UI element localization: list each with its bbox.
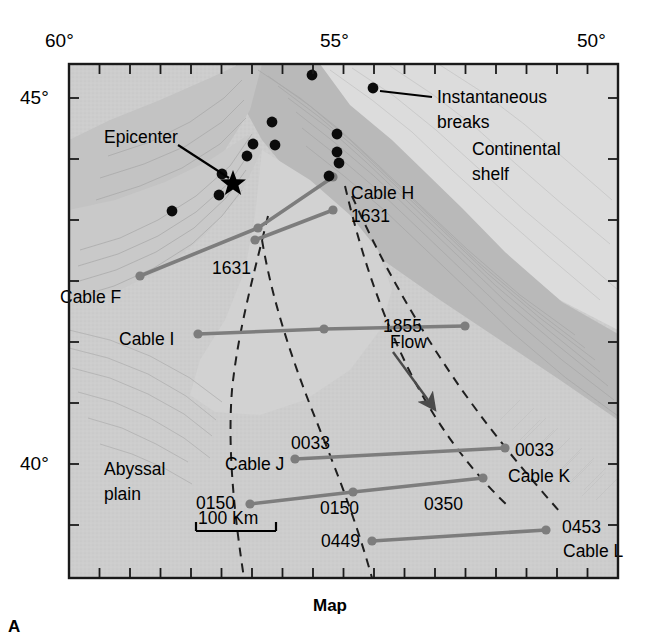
label-break-time-cable-j-0033: 0033 <box>291 433 330 453</box>
label-cable-i: Cable I <box>119 329 174 349</box>
axis-label-longitude-60: 60° <box>45 30 74 52</box>
axis-label-latitude-45: 45° <box>20 87 49 109</box>
label-cable-k: Cable K <box>508 466 571 486</box>
map-svg: Epicenter Instantaneous breaks Continent… <box>0 0 649 640</box>
label-break-time-cable-f-1631: 1631 <box>212 258 251 278</box>
label-break-time-cable-k-0033: 0033 <box>515 440 554 460</box>
label-cable-j: Cable J <box>225 454 284 474</box>
label-break-time-cable-k-0350: 0350 <box>424 494 463 514</box>
axis-label-longitude-55: 55° <box>320 30 349 52</box>
label-break-time-cable-i-1855: 1855 <box>383 316 422 336</box>
label-abyssal-plain-line1: Abyssal <box>104 459 165 479</box>
label-break-time-cable-j-0150: 0150 <box>196 493 235 513</box>
figure-caption: Map <box>313 596 347 616</box>
map-figure: Epicenter Instantaneous breaks Continent… <box>0 0 649 640</box>
label-instantaneous-breaks-line2: breaks <box>437 112 490 132</box>
label-epicenter: Epicenter <box>104 127 178 147</box>
axis-label-longitude-50: 50° <box>577 30 606 52</box>
label-break-time-cable-k-0150: 0150 <box>320 498 359 518</box>
label-abyssal-plain-line2: plain <box>104 484 141 504</box>
label-continental-shelf-line2: shelf <box>472 164 509 184</box>
label-cable-h: Cable H <box>351 183 414 203</box>
label-continental-shelf-line1: Continental <box>472 139 561 159</box>
label-break-time-cable-l-0449: 0449 <box>321 531 360 551</box>
label-break-time-cable-l-0453: 0453 <box>562 517 601 537</box>
panel-letter: A <box>8 617 20 637</box>
axis-label-latitude-40: 40° <box>20 453 49 475</box>
label-break-time-cable-h-1631: 1631 <box>351 206 390 226</box>
label-instantaneous-breaks-line1: Instantaneous <box>437 87 547 107</box>
label-cable-l: Cable L <box>563 541 624 561</box>
